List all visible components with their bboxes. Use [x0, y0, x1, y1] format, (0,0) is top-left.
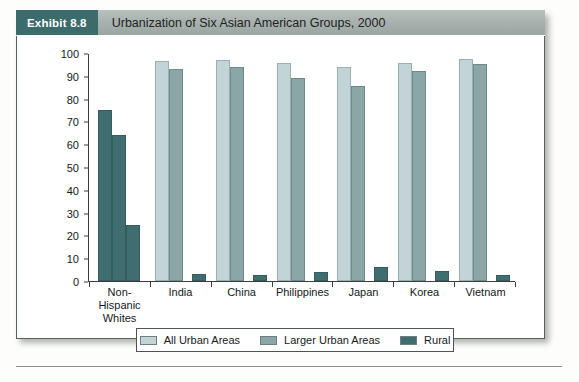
bar-group	[150, 54, 211, 281]
y-axis-tick-label: 30	[39, 208, 88, 220]
y-axis-tick-label: 10	[39, 253, 88, 265]
bar-larger	[351, 86, 365, 281]
y-axis-tick-label: 60	[39, 139, 88, 151]
y-axis-tick-mark	[84, 99, 88, 100]
exhibit-title: Urbanization of Six Asian American Group…	[98, 10, 386, 35]
y-axis-tick-label: 70	[39, 116, 88, 128]
bar-larger	[169, 69, 183, 281]
bar-rural	[253, 275, 267, 281]
x-axis-label: Japan	[333, 286, 394, 325]
bar-larger	[230, 67, 244, 281]
y-axis-tick-mark	[84, 76, 88, 77]
bar-all	[155, 61, 169, 281]
x-axis-label: Philippines	[272, 286, 333, 325]
bar-larger	[291, 78, 305, 281]
bar-all	[277, 63, 291, 281]
bar-rural	[435, 271, 449, 281]
bar-larger	[412, 71, 426, 281]
y-axis-tick-mark	[84, 54, 88, 55]
page-divider-rule	[16, 366, 562, 367]
bar-group	[89, 54, 150, 281]
x-axis-label: Vietnam	[455, 286, 516, 325]
x-axis-label-line: Whites	[89, 312, 150, 325]
y-axis-tick-label: 50	[39, 162, 88, 174]
bar-all	[337, 67, 351, 281]
legend-swatch-icon	[400, 336, 417, 345]
legend-item[interactable]: Rural	[400, 334, 450, 346]
bar-rural	[314, 272, 328, 281]
bar-rural	[192, 274, 206, 281]
x-axis-label: China	[211, 286, 272, 325]
bar-groups	[89, 54, 515, 281]
y-axis-tick-mark	[84, 122, 88, 123]
x-axis-label: India	[150, 286, 211, 325]
y-axis-tick-mark	[84, 259, 88, 260]
y-axis-tick-label: 0	[39, 276, 88, 288]
bar-larger	[473, 64, 487, 281]
bar-all	[216, 60, 230, 281]
legend-item[interactable]: All Urban Areas	[140, 334, 240, 346]
x-axis-label-line: China	[211, 286, 272, 299]
legend-swatch-icon	[260, 336, 277, 345]
y-axis-tick-mark	[84, 190, 88, 191]
chart-legend: All Urban AreasLarger Urban AreasRural	[136, 328, 454, 352]
y-axis-tick-label: 20	[39, 230, 88, 242]
x-axis-label-line: India	[150, 286, 211, 299]
bar-group	[454, 54, 515, 281]
legend-label: All Urban Areas	[164, 334, 240, 346]
y-axis-tick-label: 40	[39, 185, 88, 197]
bar-all	[398, 63, 412, 281]
bar-rural	[496, 275, 510, 281]
x-axis-labels: Non-HispanicWhitesIndiaChinaPhilippinesJ…	[89, 286, 516, 325]
bar-rural	[374, 267, 388, 281]
legend-label: Larger Urban Areas	[284, 334, 380, 346]
y-axis-tick-mark	[84, 282, 88, 283]
y-axis-tick-label: 80	[39, 94, 88, 106]
bar-group	[393, 54, 454, 281]
bar-larger	[112, 135, 126, 281]
y-axis-tick-mark	[84, 168, 88, 169]
x-axis-label-line: Vietnam	[455, 286, 516, 299]
bar-all	[459, 59, 473, 281]
bar-rural	[126, 225, 140, 281]
exhibit-number-badge: Exhibit 8.8	[16, 10, 98, 35]
x-axis-label-line: Korea	[394, 286, 455, 299]
y-axis-tick-mark	[84, 145, 88, 146]
bar-group	[211, 54, 272, 281]
x-axis-label: Korea	[394, 286, 455, 325]
bar-all	[98, 110, 112, 281]
bar-group	[332, 54, 393, 281]
legend-item[interactable]: Larger Urban Areas	[260, 334, 380, 346]
chart-container: 0102030405060708090100 Non-HispanicWhite…	[16, 36, 545, 339]
bar-group	[272, 54, 333, 281]
y-axis-tick-mark	[84, 236, 88, 237]
x-axis-label-line: Japan	[333, 286, 394, 299]
legend-label: Rural	[424, 334, 450, 346]
exhibit-header: Exhibit 8.8 Urbanization of Six Asian Am…	[16, 10, 545, 36]
legend-swatch-icon	[140, 336, 157, 345]
y-axis-tick-label: 100	[39, 48, 88, 60]
plot-area: 0102030405060708090100	[88, 54, 515, 282]
y-axis-tick-label: 90	[39, 71, 88, 83]
y-axis-tick-mark	[84, 213, 88, 214]
x-axis-label-line: Philippines	[272, 286, 333, 299]
x-axis-label: Non-HispanicWhites	[89, 286, 150, 325]
exhibit-panel: Exhibit 8.8 Urbanization of Six Asian Am…	[16, 10, 545, 338]
x-axis-label-line: Non-Hispanic	[89, 286, 150, 312]
